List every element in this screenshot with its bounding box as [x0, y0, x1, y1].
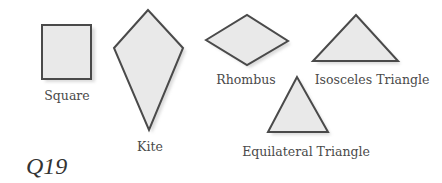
rhombus-shape — [206, 15, 291, 68]
isosceles-triangle-shape — [313, 15, 401, 64]
equilateral-triangle-label: Equilateral Triangle — [242, 144, 370, 159]
square-label: Square — [44, 88, 89, 103]
question-label: Q19 — [26, 153, 67, 179]
rhombus-label: Rhombus — [216, 72, 275, 87]
square-shape — [42, 25, 95, 82]
kite-label: Kite — [137, 139, 163, 154]
isosceles-triangle-label: Isosceles Triangle — [315, 72, 430, 87]
shapes-figure: Square Kite Rhombus Isosceles Triangle E… — [0, 0, 442, 183]
kite-shape — [114, 10, 186, 133]
